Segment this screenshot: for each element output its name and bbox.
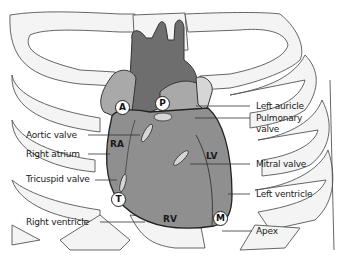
- aortic-point-marker: A: [115, 100, 130, 115]
- rv-label: RV: [163, 214, 177, 224]
- ra-label: RA: [110, 139, 124, 149]
- pulmonary-point-marker: P: [155, 96, 170, 111]
- label-pulmonary-valve-line1: Pulmonary: [256, 113, 302, 123]
- tricuspid-point-marker: T: [111, 192, 126, 207]
- mitral-point-marker: M: [213, 211, 228, 226]
- lv-label: LV: [206, 151, 217, 161]
- heart-body: [107, 108, 232, 228]
- label-apex: Apex: [256, 226, 278, 236]
- label-mitral-valve: Mitral valve: [256, 159, 306, 169]
- label-right-atrium: Right atrium: [26, 149, 80, 159]
- label-aortic-valve: Aortic valve: [26, 130, 77, 140]
- label-left-auricle: Left auricle: [256, 101, 304, 111]
- label-pulmonary-valve-line2: valve: [256, 124, 279, 134]
- label-left-ventricle: Left ventricle: [256, 189, 312, 199]
- heart-anatomy-diagram: RA LV RV A P T M Aortic valve Right atri…: [0, 0, 342, 268]
- label-tricuspid-valve: Tricuspid valve: [26, 174, 90, 184]
- label-right-ventricle: Right ventricle: [26, 217, 89, 227]
